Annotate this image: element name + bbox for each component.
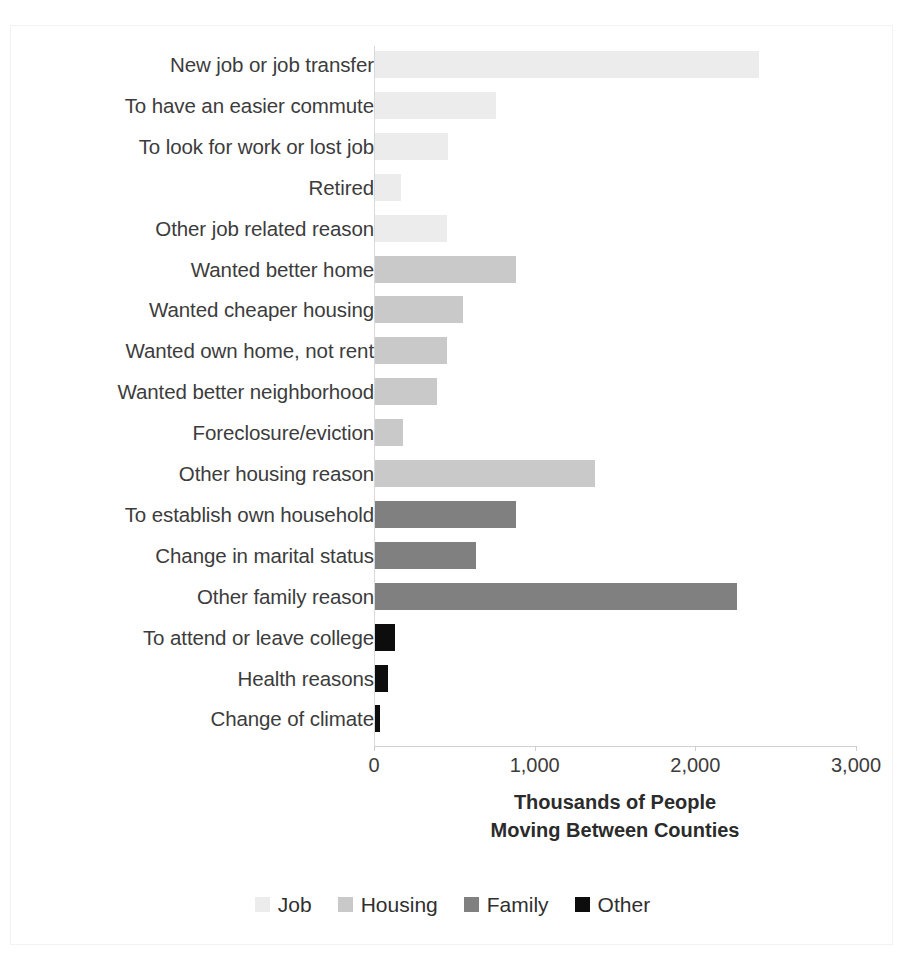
legend-swatch-icon	[464, 897, 479, 912]
category-label: To have an easier commute	[34, 92, 374, 119]
legend-label: Other	[598, 894, 651, 915]
tick-mark	[535, 746, 536, 751]
bar	[375, 337, 447, 364]
category-label: Wanted cheaper housing	[34, 296, 374, 323]
axis-title: Thousands of PeopleMoving Between Counti…	[374, 788, 856, 844]
legend-item-family[interactable]: Family	[464, 894, 549, 915]
category-label: New job or job transfer	[34, 51, 374, 78]
tick-label: 1,000	[510, 754, 560, 777]
tick-mark	[695, 746, 696, 751]
category-label: Change of climate	[34, 705, 374, 732]
bar	[375, 542, 476, 569]
value-axis-line	[374, 746, 856, 747]
axis-title-line: Moving Between Counties	[374, 816, 856, 844]
category-label: Other job related reason	[34, 215, 374, 242]
bar	[375, 501, 516, 528]
bar	[375, 92, 496, 119]
legend-item-job[interactable]: Job	[255, 894, 312, 915]
legend-swatch-icon	[255, 897, 270, 912]
category-label: Other family reason	[34, 583, 374, 610]
bar	[375, 296, 463, 323]
bar	[375, 624, 395, 651]
bar	[375, 51, 759, 78]
category-label: Other housing reason	[34, 460, 374, 487]
category-label: To establish own household	[34, 501, 374, 528]
category-label: Wanted own home, not rent	[34, 337, 374, 364]
category-label: To look for work or lost job	[34, 133, 374, 160]
tick-label: 0	[368, 754, 379, 777]
legend-label: Housing	[361, 894, 438, 915]
bar	[375, 705, 380, 732]
tick-label: 2,000	[670, 754, 720, 777]
legend-item-housing[interactable]: Housing	[338, 894, 438, 915]
tick-label: 3,000	[831, 754, 881, 777]
bar	[375, 133, 448, 160]
legend-label: Family	[487, 894, 549, 915]
bar	[375, 215, 447, 242]
tick-mark	[374, 746, 375, 751]
bar	[375, 665, 388, 692]
legend-label: Job	[278, 894, 312, 915]
tick-mark	[856, 746, 857, 751]
bar	[375, 460, 595, 487]
category-label: Change in marital status	[34, 542, 374, 569]
plot-area: New job or job transferTo have an easier…	[11, 26, 894, 771]
category-label: Wanted better home	[34, 256, 374, 283]
chart-container: New job or job transferTo have an easier…	[10, 25, 893, 945]
legend-item-other[interactable]: Other	[575, 894, 651, 915]
category-label: Foreclosure/eviction	[34, 419, 374, 446]
axis-title-line: Thousands of People	[374, 788, 856, 816]
category-label: Retired	[34, 174, 374, 201]
bar	[375, 583, 737, 610]
chart-legend: JobHousingFamilyOther	[11, 894, 894, 915]
category-label: Health reasons	[34, 665, 374, 692]
category-label: To attend or leave college	[34, 624, 374, 651]
bar	[375, 419, 403, 446]
bar	[375, 256, 516, 283]
bar	[375, 378, 437, 405]
bar	[375, 174, 401, 201]
legend-swatch-icon	[338, 897, 353, 912]
legend-swatch-icon	[575, 897, 590, 912]
category-label: Wanted better neighborhood	[34, 378, 374, 405]
